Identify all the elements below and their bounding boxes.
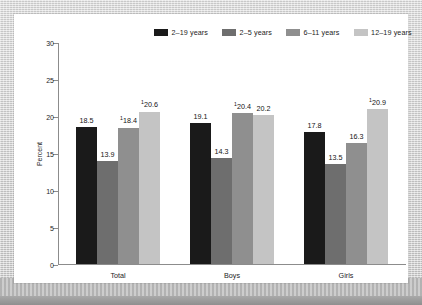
footnote-marker: 1	[120, 115, 123, 121]
legend-label: 2–19 years	[172, 28, 209, 37]
y-axis-tick-label: 25	[46, 77, 54, 84]
legend-item-0[interactable]: 2–19 years	[154, 28, 208, 37]
bar-value-label: 120.9	[369, 97, 386, 107]
bar-rect	[325, 164, 346, 264]
bar-rect	[97, 161, 118, 264]
footnote-marker: 1	[369, 97, 372, 103]
bar-value-label: 19.1	[194, 112, 208, 121]
bar[interactable]: 120.4	[232, 113, 253, 264]
footnote-marker: 1	[141, 99, 144, 105]
x-axis-category-label: Boys	[224, 271, 240, 280]
bar[interactable]: 16.3	[346, 143, 367, 264]
bar-rect	[211, 158, 232, 264]
bar[interactable]: 18.5	[76, 127, 97, 264]
bar-rect	[76, 127, 97, 264]
x-axis-line	[58, 264, 406, 265]
footnote-marker: 1	[234, 101, 237, 107]
y-axis-line	[58, 43, 59, 265]
bar[interactable]: 13.5	[325, 164, 346, 264]
bar-group-girls: 17.813.516.3120.9Girls	[304, 109, 388, 264]
y-axis-tick-label: 20	[46, 114, 54, 121]
legend-swatch-icon	[154, 29, 168, 36]
bar-rect	[367, 109, 388, 264]
bar[interactable]: 118.4	[118, 128, 139, 264]
bar[interactable]: 19.1	[190, 123, 211, 264]
bar-rect	[304, 132, 325, 264]
legend-label: 6–11 years	[304, 28, 340, 37]
chart-panel: 2–19 years2–5 years6–11 years12–19 years…	[14, 14, 408, 283]
y-axis-tick-label: 5	[50, 225, 54, 232]
legend-item-3[interactable]: 12–19 years	[354, 28, 412, 37]
bar-value-label: 120.4	[234, 101, 251, 111]
bar-value-label: 17.8	[308, 121, 322, 130]
legend-swatch-icon	[354, 29, 368, 36]
bar-rect	[118, 128, 139, 264]
bar-value-label: 120.6	[141, 99, 158, 109]
y-axis-tick-label: 15	[46, 151, 54, 158]
bar-value-label: 16.3	[350, 132, 364, 141]
bar-value-label: 18.5	[80, 116, 94, 125]
bar-rect	[190, 123, 211, 264]
bar-value-label: 13.5	[329, 153, 343, 162]
bar[interactable]: 17.8	[304, 132, 325, 264]
bar-group-boys: 19.114.3120.420.2Boys	[190, 113, 274, 264]
bar-rect	[139, 112, 160, 264]
legend-label: 12–19 years	[371, 28, 412, 37]
x-axis-category-label: Girls	[339, 271, 354, 280]
y-axis-title: Percent	[36, 142, 43, 166]
legend-item-1[interactable]: 2–5 years	[222, 28, 272, 37]
bar[interactable]: 14.3	[211, 158, 232, 264]
y-axis-tick-label: 30	[46, 40, 54, 47]
y-axis-tick-label: 10	[46, 188, 54, 195]
legend-swatch-icon	[222, 29, 236, 36]
x-axis-category-label: Total	[110, 271, 125, 280]
chart-legend: 2–19 years2–5 years6–11 years12–19 years	[154, 28, 412, 37]
bar-value-label: 118.4	[120, 115, 137, 125]
bar-rect	[253, 115, 274, 264]
bar[interactable]: 20.2	[253, 115, 274, 264]
bar[interactable]: 13.9	[97, 161, 118, 264]
bar-rect	[232, 113, 253, 264]
bar[interactable]: 120.6	[139, 112, 160, 264]
plot-area: Percent 051015202530 18.513.9118.4120.6T…	[58, 43, 398, 265]
bar-value-label: 13.9	[101, 150, 115, 159]
bar-value-label: 14.3	[215, 147, 229, 156]
bar-group-total: 18.513.9118.4120.6Total	[76, 112, 160, 264]
bar-value-label: 20.2	[257, 104, 271, 113]
legend-swatch-icon	[286, 29, 300, 36]
page-bottom-bar	[0, 296, 422, 305]
y-axis-tick-label: 0	[50, 262, 54, 269]
bar-rect	[346, 143, 367, 264]
bar[interactable]: 120.9	[367, 109, 388, 264]
legend-item-2[interactable]: 6–11 years	[286, 28, 340, 37]
legend-label: 2–5 years	[240, 28, 272, 37]
